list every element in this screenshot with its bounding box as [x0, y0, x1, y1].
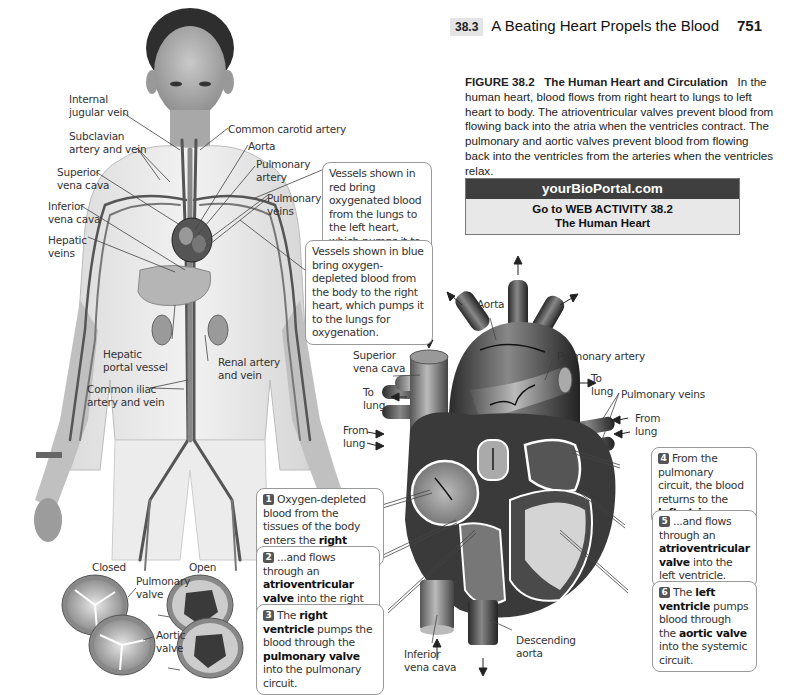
label-renal: Renal artery and vein — [218, 356, 280, 381]
step-4-badge: 4 — [658, 453, 669, 464]
step-6-bold2: aortic valve — [679, 627, 747, 640]
aortic-valve-open — [177, 618, 243, 678]
label-pulmonary-veins-body: Pulmonary veins — [267, 192, 321, 217]
label-inferior-vena-cava-heart: Inferior vena cava — [404, 648, 456, 673]
step-3-badge: 3 — [263, 610, 274, 621]
label-aorta-heart: Aorta — [477, 298, 504, 311]
step-6-post: into the systemic circuit. — [659, 640, 747, 667]
aortic-valve-closed — [89, 615, 155, 675]
label-hepatic-veins: Hepatic veins — [48, 234, 87, 259]
step-3-bold2: pulmonary valve — [263, 650, 360, 663]
label-open: Open — [189, 561, 216, 574]
step-6-callout: 6The left ventricle pumps blood through … — [652, 581, 757, 672]
step-3-post: into the pulmonary circuit. — [263, 663, 361, 690]
label-inferior-vena-cava: Inferior vena cava — [48, 200, 100, 225]
label-to-lung-left: To lung — [363, 386, 385, 411]
step-3-text: The — [277, 609, 299, 622]
step-6-text: The — [673, 586, 695, 599]
label-pulmonary-valve: Pulmonary valve — [136, 575, 190, 600]
label-internal-jugular: Internal jugular vein — [69, 93, 129, 118]
label-superior-vena-cava: Superior vena cava — [57, 166, 109, 191]
step-4-text: From the pulmonary circuit, the blood re… — [658, 452, 744, 506]
label-aorta-body: Aorta — [248, 140, 275, 153]
step-2-badge: 2 — [263, 552, 274, 563]
person-head — [146, 8, 234, 150]
label-from-lung-left: From lung — [343, 424, 368, 449]
kidney-left — [152, 315, 172, 345]
step-5-callout: 5...and flows through an atrioventricula… — [652, 510, 757, 588]
label-hepatic-portal: Hepatic portal vessel — [103, 348, 168, 373]
step-5-badge: 5 — [659, 516, 670, 527]
label-closed: Closed — [92, 561, 126, 574]
label-subclavian: Subclavian artery and vein — [69, 130, 147, 155]
label-pulmonary-veins-heart: Pulmonary veins — [621, 388, 705, 401]
label-common-carotid: Common carotid artery — [228, 123, 346, 136]
label-superior-vena-cava-heart: Superior vena cava — [353, 349, 405, 374]
label-pulmonary-artery-body: Pulmonary artery — [256, 158, 310, 183]
step-1-text: Oxygen-depleted blood from the tissues o… — [263, 493, 366, 547]
step-1-badge: 1 — [263, 494, 274, 505]
label-descending-aorta: Descending aorta — [516, 634, 576, 659]
step-3-callout: 3The right ventricle pumps the blood thr… — [256, 604, 384, 695]
label-to-lung-right: To lung — [591, 372, 613, 397]
step-6-badge: 6 — [659, 587, 670, 598]
label-from-lung-right: From lung — [635, 412, 660, 437]
label-common-iliac: Common iliac artery and vein — [87, 383, 165, 408]
label-aortic-valve: Aortic valve — [156, 629, 185, 654]
kidney-right — [208, 315, 228, 345]
note-blue-vessels: Vessels shown in blue bring oxygen-deple… — [305, 240, 433, 345]
label-pulmonary-artery-heart: Pulmonary artery — [557, 350, 645, 363]
